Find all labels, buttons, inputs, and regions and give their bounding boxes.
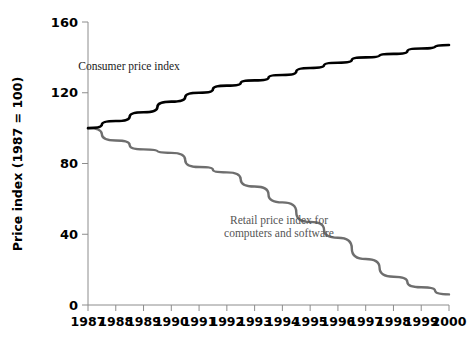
series-line-computer-price-index	[88, 128, 449, 294]
y-axis-tick-label: 80	[60, 156, 78, 171]
x-axis-tick-marks	[88, 305, 449, 311]
y-axis-tick-label: 160	[51, 15, 78, 30]
y-axis-tick-label: 0	[69, 298, 78, 313]
y-axis-tick-label: 120	[51, 85, 78, 100]
y-axis-tick-labels: 04080120160	[51, 15, 78, 313]
series-line-consumer-price-index	[88, 45, 449, 128]
cpi-annotation: Consumer price index	[78, 60, 180, 73]
x-axis-tick-label: 2000	[432, 314, 467, 329]
annotation-line: Retail price index for	[230, 214, 328, 227]
y-axis-tick-label: 40	[60, 227, 78, 242]
annotation-line: computers and software	[224, 227, 334, 240]
y-axis-title: Price index (1987 = 100)	[10, 77, 25, 251]
price-index-chart: 04080120160 1987198819891990199119921993…	[0, 0, 472, 342]
computer-index-annotation: Retail price index forcomputers and soft…	[224, 214, 334, 240]
chart-canvas: 04080120160 1987198819891990199119921993…	[0, 0, 472, 342]
x-axis-tick-labels: 1987198819891990199119921993199419951996…	[71, 314, 467, 329]
annotation-line: Consumer price index	[78, 60, 180, 73]
